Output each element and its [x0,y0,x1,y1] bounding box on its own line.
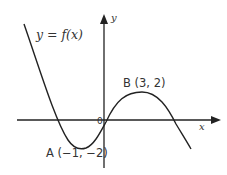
point-a-label: A (−1, −2) [46,146,108,160]
point-b-label: B (3, 2) [123,76,165,90]
y-axis-label: y [111,12,117,23]
graph-canvas [0,0,227,175]
function-label: y = f(x) [36,27,83,42]
curve-f [24,24,191,149]
origin-label: 0 [97,116,103,126]
x-axis-arrow-icon [211,116,221,124]
y-axis-arrow-icon [100,14,108,24]
graph-diagram: y = f(x) y x 0 B (3, 2) A (−1, −2) [0,0,227,175]
x-axis-label: x [199,121,205,132]
